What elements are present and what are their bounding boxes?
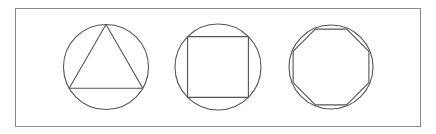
square-in-circle bbox=[175, 24, 261, 110]
diagram-frame bbox=[16, 9, 421, 127]
triangle-in-circle bbox=[64, 25, 149, 110]
figures-group bbox=[64, 24, 374, 110]
inscribed-octagon bbox=[293, 29, 369, 105]
polygons-in-circles-diagram bbox=[0, 0, 436, 134]
inscribed-square bbox=[188, 37, 249, 98]
inscribed-triangle bbox=[69, 25, 143, 89]
octagon-in-circle bbox=[289, 25, 373, 109]
circumscribed-circle bbox=[289, 25, 373, 109]
circumscribed-circle bbox=[64, 25, 149, 110]
